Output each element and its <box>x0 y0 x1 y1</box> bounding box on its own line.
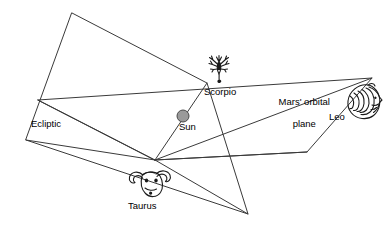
ecliptic-plane-shape <box>26 13 248 214</box>
label-sun: Sun <box>179 121 196 132</box>
label-leo: Leo <box>329 111 345 122</box>
label-mars-orbital-plane-line1: Mars' orbital <box>279 96 330 107</box>
bull-head-icon <box>129 171 170 197</box>
label-taurus: Taurus <box>128 200 157 211</box>
label-ecliptic: Ecliptic <box>31 118 61 129</box>
label-mars-orbital-plane-line2: plane <box>293 118 316 129</box>
astronomy-diagram: Ecliptic Sun Scorpio Taurus Leo Mars' or… <box>0 0 384 226</box>
lion-head-icon <box>348 83 382 118</box>
label-scorpio: Scorpio <box>204 86 236 97</box>
scorpion-icon <box>209 56 229 84</box>
label-mars-orbital-plane: Mars' orbital plane <box>267 85 331 140</box>
